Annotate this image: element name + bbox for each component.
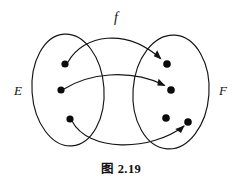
- arrow-e2-f2-head: [156, 79, 167, 89]
- figure-caption: 图 2.19: [0, 158, 242, 177]
- map-label-f: f: [114, 10, 120, 25]
- set-f-element-1: [163, 60, 171, 68]
- arrow-e1-f1-head: [152, 50, 163, 61]
- set-label-e: E: [13, 83, 22, 98]
- set-e-element-2: [57, 86, 64, 93]
- set-e-element-1: [61, 60, 68, 67]
- arrow-e2-f2: [64, 75, 164, 89]
- arrow-e3-f4: [72, 121, 184, 145]
- set-f-element-4: [184, 118, 192, 126]
- arrow-e3-f4-head: [175, 123, 187, 134]
- set-e-element-3: [66, 115, 73, 122]
- set-f-element-2: [167, 86, 175, 94]
- set-f-element-3: [162, 114, 170, 122]
- figure-container: f E F 图 2.19: [0, 0, 242, 195]
- set-e-outline: [28, 32, 108, 149]
- set-label-f: F: [218, 83, 228, 98]
